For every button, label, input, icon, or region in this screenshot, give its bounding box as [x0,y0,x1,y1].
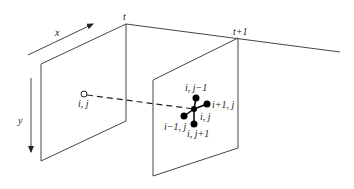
optical-flow-diagram: x y t t+1 i, j i, j−1 i+1, j i, j i−1 [0,0,354,189]
neighbor-down-label: i, j+1 [187,128,209,139]
neighbor-left-label: i−1, j [164,121,187,132]
neighbor-center-dot-icon [191,106,197,112]
frame-t-plus-1-label: t+1 [233,26,248,37]
neighbor-down-dot-icon [191,121,198,128]
neighbor-up-dot-icon [193,95,200,102]
neighbor-right-label: i+1, j [212,99,235,110]
neighbor-left-dot-icon [181,113,188,120]
source-point: i, j [78,91,89,109]
neighbor-center-label: i, j [200,111,211,122]
correspondence-dashed-line [87,95,194,109]
source-point-circle-icon [81,91,87,97]
y-axis-label: y [17,115,23,126]
neighbor-cluster: i, j−1 i+1, j i, j i−1, j i, j+1 [164,82,235,139]
source-point-label: i, j [78,98,89,109]
x-axis-arrow-icon [28,24,93,55]
y-axis: y [17,78,31,152]
frame-t-label: t [123,11,126,22]
x-axis: x [28,24,93,55]
neighbor-up-label: i, j−1 [185,82,207,93]
x-axis-label: x [54,27,60,38]
neighbor-right-dot-icon [204,101,211,108]
frame-t: t [41,11,126,161]
